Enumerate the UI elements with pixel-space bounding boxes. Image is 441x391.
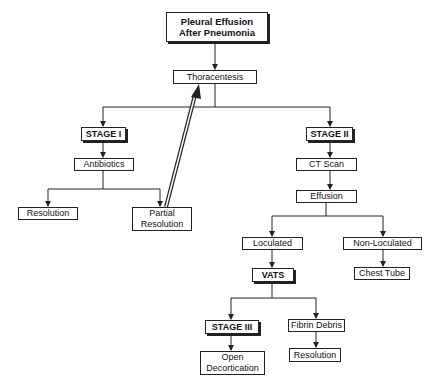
node-chest-tube: Chest Tube <box>354 267 410 280</box>
node-effusion: Effusion <box>296 190 357 203</box>
node-non-loculated: Non-Loculated <box>343 237 422 250</box>
feedback-arrow <box>166 84 201 207</box>
node-antibiotics: Antibiotics <box>74 158 134 171</box>
flowchart: Pleural Effusion After Pneumonia Thorace… <box>0 0 441 391</box>
node-fibrin-debris: Fibrin Debris <box>288 319 345 332</box>
node-partial-resolution: Partial Resolution <box>132 207 192 231</box>
node-ct-scan: CT Scan <box>296 158 357 171</box>
title-node: Pleural Effusion After Pneumonia <box>166 12 268 42</box>
node-stage1: STAGE I <box>81 127 126 141</box>
node-open-decortication: Open Decortication <box>200 351 265 375</box>
node-resolution-1: Resolution <box>18 207 78 220</box>
node-vats: VATS <box>252 268 294 282</box>
node-stage2: STAGE II <box>306 127 353 141</box>
node-thoracentesis: Thoracentesis <box>173 70 257 84</box>
node-stage3: STAGE III <box>205 320 259 334</box>
node-loculated: Loculated <box>242 237 303 250</box>
node-resolution-2: Resolution <box>289 348 341 362</box>
